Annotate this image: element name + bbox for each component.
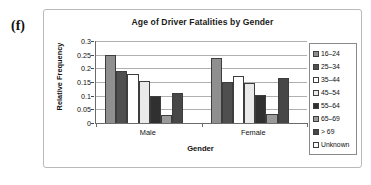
legend-item[interactable]: 45–54: [313, 86, 354, 99]
legend-item-label: 65–69: [321, 115, 340, 122]
bar-male-35-44: [127, 74, 138, 123]
legend-item[interactable]: 65–69: [313, 112, 354, 125]
x-axis-tick-mark: [96, 123, 97, 127]
legend-swatch-icon: [313, 77, 319, 83]
legend-item[interactable]: 55–64: [313, 99, 354, 112]
y-axis-tick-label: 0.15: [77, 78, 91, 87]
x-axis-category-labels: MaleFemale: [95, 128, 306, 137]
legend-item[interactable]: 35–44: [313, 73, 354, 86]
y-axis-tick-label: 0.1: [81, 91, 91, 100]
bar-female-65-69: [266, 114, 277, 123]
y-axis-tick-mark: [91, 82, 94, 83]
x-axis-label-female: Female: [201, 128, 307, 137]
legend-item[interactable]: 25–34: [313, 60, 354, 73]
legend-item-label: 55–64: [321, 102, 340, 109]
y-axis-tick-label: 0.25: [77, 50, 91, 59]
figure-panel: (f) Age of Driver Fatalities by Gender R…: [0, 0, 371, 185]
y-axis-tick-label: 0.2: [81, 64, 91, 73]
legend-item-label: 25–34: [321, 63, 340, 70]
legend-item-label: Unknown: [321, 141, 349, 148]
x-axis-label-male: Male: [95, 128, 201, 137]
legend-item-label: 16–24: [321, 50, 340, 57]
legend-swatch-icon: [313, 51, 319, 57]
chart-title: Age of Driver Fatalities by Gender: [44, 17, 361, 27]
bar-female-69: [278, 78, 289, 123]
chart-legend: 16–2425–3435–4445–5455–6465–69> 69Unknow…: [309, 43, 357, 155]
legend-swatch-icon: [313, 103, 319, 109]
legend-swatch-icon: [313, 64, 319, 70]
bar-female-45-54: [244, 83, 255, 123]
x-axis-tick-mark: [307, 123, 308, 127]
y-axis-tick-label: 0.3: [81, 37, 91, 46]
bar-female-55-64: [255, 95, 266, 123]
bar-group-female: [202, 41, 308, 123]
y-axis-title: Relative Frequency: [55, 34, 64, 120]
bar-group-male: [96, 41, 202, 123]
bar-female-25-34: [222, 82, 233, 123]
panel-label: (f): [11, 18, 25, 34]
bar-male-69: [172, 93, 183, 123]
chart-frame: Age of Driver Fatalities by Gender Relat…: [43, 9, 362, 168]
legend-item[interactable]: 16–24: [313, 47, 354, 60]
y-axis-tick-mark: [91, 55, 94, 56]
legend-item-label: 45–54: [321, 89, 340, 96]
bar-male-45-54: [139, 81, 150, 123]
bar-female-16-24: [211, 58, 222, 123]
legend-item-label: > 69: [321, 128, 334, 135]
y-axis-tick-mark: [91, 123, 94, 124]
legend-swatch-icon: [313, 90, 319, 96]
legend-swatch-icon: [313, 142, 319, 148]
plot-area: [95, 41, 307, 124]
legend-item-label: 35–44: [321, 76, 340, 83]
x-axis-tick-mark: [202, 123, 203, 127]
y-axis-tick-labels: 0.30.250.20.150.10.050: [64, 41, 94, 123]
bar-male-55-64: [150, 96, 161, 123]
y-axis-tick-mark: [91, 109, 94, 110]
legend-swatch-icon: [313, 116, 319, 122]
bar-groups: [96, 41, 307, 123]
x-axis-title: Gender: [95, 144, 306, 153]
bar-female-35-44: [233, 76, 244, 123]
y-axis-tick-label: 0.05: [77, 105, 91, 114]
y-axis-tick-mark: [91, 41, 94, 42]
legend-swatch-icon: [313, 129, 319, 135]
y-axis-tick-mark: [91, 96, 94, 97]
y-axis-tick-mark: [91, 68, 94, 69]
legend-item[interactable]: Unknown: [313, 138, 354, 151]
bar-male-16-24: [105, 55, 116, 123]
legend-item[interactable]: > 69: [313, 125, 354, 138]
bar-male-65-69: [161, 115, 172, 123]
bar-male-25-34: [116, 71, 127, 123]
